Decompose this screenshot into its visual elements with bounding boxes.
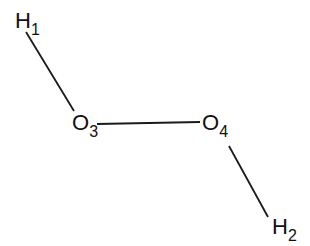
atom-h2: H2 [272, 216, 297, 238]
bond-lines [0, 0, 310, 246]
atom-h1: H1 [15, 10, 40, 32]
atom-o3: O3 [72, 112, 98, 134]
bond-h1-o3 [26, 32, 74, 111]
bond-o3-o4 [97, 122, 200, 124]
bond-o4-h2 [229, 146, 268, 217]
atom-o4: O4 [202, 112, 228, 134]
